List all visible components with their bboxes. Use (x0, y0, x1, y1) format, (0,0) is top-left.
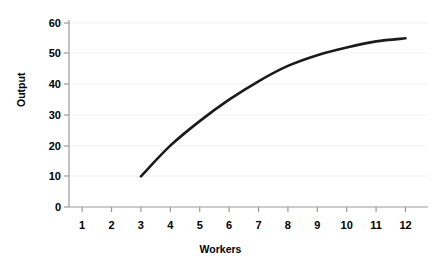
x-tick-label-7: 7 (249, 220, 269, 231)
x-tick-label-2: 2 (102, 220, 122, 231)
chart-container: 60 50 40 30 20 10 0 1 2 3 4 5 6 7 8 9 10… (0, 0, 441, 270)
y-tick-label-50: 50 (43, 48, 61, 59)
y-axis-ticks (64, 23, 69, 207)
y-tick-label-60: 60 (43, 18, 61, 29)
x-tick-label-5: 5 (190, 220, 210, 231)
x-tick-label-9: 9 (307, 220, 327, 231)
y-tick-label-10: 10 (43, 171, 61, 182)
y-tick-label-40: 40 (43, 79, 61, 90)
x-tick-label-10: 10 (337, 220, 357, 231)
x-tick-label-11: 11 (366, 220, 386, 231)
production-function-curve (141, 38, 406, 176)
x-tick-label-4: 4 (160, 220, 180, 231)
y-axis-title: Output (15, 93, 27, 107)
y-tick-label-0: 0 (43, 202, 61, 213)
x-tick-label-6: 6 (219, 220, 239, 231)
output-curve (141, 80, 259, 176)
x-axis-title: Workers (0, 243, 441, 255)
x-tick-label-8: 8 (278, 220, 298, 231)
x-tick-label-3: 3 (131, 220, 151, 231)
x-tick-label-12: 12 (396, 220, 416, 231)
y-tick-label-30: 30 (43, 110, 61, 121)
gridlines (69, 23, 428, 176)
x-axis-ticks (82, 207, 405, 212)
y-tick-label-20: 20 (43, 141, 61, 152)
x-tick-label-1: 1 (72, 220, 92, 231)
